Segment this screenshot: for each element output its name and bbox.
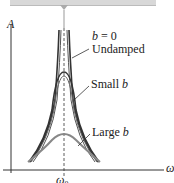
x-axis-label: ω: [166, 162, 174, 175]
y-axis-label: A: [7, 18, 14, 31]
small-b-label: Small b: [91, 78, 128, 91]
resonance-diagram: [0, 0, 174, 183]
large-b-label: Large b: [92, 126, 129, 139]
undamped-label: b = 0 Undamped: [92, 30, 145, 56]
omega0-tick-label: ω0: [56, 174, 68, 183]
